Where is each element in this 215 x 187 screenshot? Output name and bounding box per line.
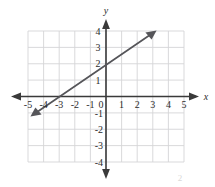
y-tick-label: -1 (95, 108, 103, 119)
x-tick-label: 2 (135, 99, 140, 110)
arrow-left-icon (11, 93, 21, 101)
x-tick-label: 5 (182, 99, 187, 110)
line-arrow-upper-right (145, 30, 156, 39)
x-tick-label: 4 (166, 99, 171, 110)
y-tick-label: 2 (96, 58, 101, 69)
page-number-artifact: 2 (178, 173, 183, 183)
y-tick-label: -2 (95, 124, 103, 135)
arrow-down-icon (102, 169, 110, 179)
y-axis-label: y (103, 5, 109, 16)
x-tick-label: -4 (39, 99, 47, 110)
y-tick-labels-positive: 4 3 2 1 (96, 26, 101, 86)
x-axis-label: x (203, 91, 209, 102)
x-tick-label: -2 (71, 99, 79, 110)
x-tick-labels-negative: -5 -4 -3 -2 -1 (24, 99, 95, 110)
arrow-up-icon (102, 19, 110, 29)
y-tick-label: 4 (96, 26, 101, 37)
x-tick-label: -1 (86, 99, 94, 110)
y-tick-label: -3 (95, 140, 103, 151)
arrow-right-icon (189, 93, 199, 101)
y-tick-label: 3 (96, 42, 101, 53)
coordinate-plane-svg: -5 -4 -3 -2 -1 0 1 2 3 4 5 4 3 2 1 -1 -2… (0, 0, 215, 187)
y-tick-labels-negative: -1 -2 -3 -4 (95, 108, 103, 168)
graph-figure: -5 -4 -3 -2 -1 0 1 2 3 4 5 4 3 2 1 -1 -2… (0, 0, 215, 187)
x-tick-labels-positive: 1 2 3 4 5 (119, 99, 186, 110)
y-tick-label: 1 (96, 75, 101, 86)
x-tick-label: 3 (150, 99, 155, 110)
x-tick-label: -5 (24, 99, 32, 110)
y-tick-label: -4 (95, 157, 103, 168)
x-tick-label: 1 (119, 99, 124, 110)
x-tick-label: -3 (55, 99, 63, 110)
